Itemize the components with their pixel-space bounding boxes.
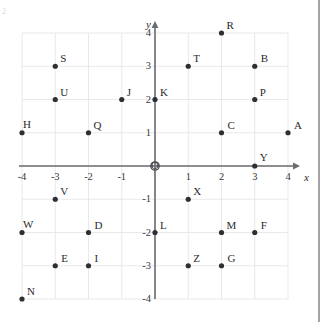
- data-point-t: [186, 64, 191, 69]
- data-point-y: [252, 163, 257, 168]
- y-tick-label: -2: [133, 228, 151, 239]
- data-point-d: [86, 230, 91, 235]
- x-tick-label: -1: [111, 172, 133, 183]
- data-point-j: [119, 97, 124, 102]
- point-label-p: P: [260, 87, 266, 98]
- data-point-n: [19, 296, 24, 301]
- y-tick-label: -1: [133, 194, 151, 205]
- point-label-s: S: [60, 53, 66, 64]
- y-axis-label: y: [146, 19, 151, 30]
- point-label-a: A: [294, 120, 302, 131]
- point-label-c: C: [228, 120, 235, 131]
- origin-label: O: [151, 161, 159, 172]
- point-label-b: B: [261, 53, 268, 64]
- data-point-l: [152, 230, 157, 235]
- point-label-y: Y: [260, 152, 268, 163]
- y-tick-label: -3: [133, 261, 151, 272]
- point-label-e: E: [61, 253, 68, 264]
- y-tick-label: 1: [133, 128, 151, 139]
- data-point-z: [186, 263, 191, 268]
- point-label-v: V: [60, 186, 68, 197]
- data-point-h: [19, 130, 24, 135]
- x-tick-label: 1: [177, 172, 199, 183]
- point-label-j: J: [127, 87, 131, 98]
- y-tick-label: -4: [133, 294, 151, 305]
- x-tick-label: -2: [78, 172, 100, 183]
- x-tick-label: 3: [244, 172, 266, 183]
- point-label-n: N: [27, 286, 35, 297]
- point-label-l: L: [160, 220, 167, 231]
- point-label-m: M: [227, 220, 237, 231]
- point-label-u: U: [60, 87, 68, 98]
- point-label-r: R: [227, 20, 234, 31]
- plot-canvas: [0, 0, 327, 322]
- point-label-w: W: [23, 219, 33, 230]
- x-tick-label: 2: [211, 172, 233, 183]
- x-tick-label: 4: [277, 172, 299, 183]
- data-point-b: [252, 64, 257, 69]
- data-point-p: [252, 97, 257, 102]
- point-label-x: X: [193, 186, 201, 197]
- x-tick-label: -3: [44, 172, 66, 183]
- data-point-a: [285, 130, 290, 135]
- data-point-i: [86, 263, 91, 268]
- y-tick-label: 3: [133, 61, 151, 72]
- point-label-h: H: [23, 119, 31, 130]
- data-point-f: [252, 230, 257, 235]
- point-label-k: K: [160, 87, 168, 98]
- coordinate-plane-figure: 2 -4-3-2-112344321-1-2-3-4OxyABCDEFGHIJK…: [0, 0, 327, 322]
- point-label-q: Q: [94, 120, 102, 131]
- y-tick-label: 2: [133, 95, 151, 106]
- point-label-g: G: [228, 253, 236, 264]
- data-point-x: [186, 197, 191, 202]
- x-axis-label: x: [304, 172, 309, 183]
- data-point-g: [219, 263, 224, 268]
- data-point-s: [53, 64, 58, 69]
- point-label-i: I: [95, 253, 99, 264]
- point-label-t: T: [193, 53, 200, 64]
- data-point-r: [219, 30, 224, 35]
- point-label-z: Z: [193, 253, 200, 264]
- data-point-k: [152, 97, 157, 102]
- point-label-f: F: [261, 220, 267, 231]
- data-point-q: [86, 130, 91, 135]
- data-point-e: [53, 263, 58, 268]
- x-axis-arrow-icon: [293, 163, 300, 170]
- y-axis-arrow-icon: [152, 21, 159, 28]
- data-point-c: [219, 130, 224, 135]
- point-label-d: D: [95, 220, 103, 231]
- data-point-w: [19, 230, 24, 235]
- x-tick-label: -4: [11, 172, 33, 183]
- data-point-v: [53, 197, 58, 202]
- data-point-m: [219, 230, 224, 235]
- data-point-u: [53, 97, 58, 102]
